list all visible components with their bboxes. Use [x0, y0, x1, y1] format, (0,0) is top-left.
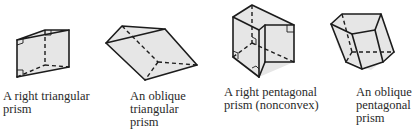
caption-oblique-triangular-prism: An oblique triangular prism [130, 90, 186, 129]
caption-oblique-pentagonal-prism: An oblique pentagonal prism [356, 86, 412, 125]
caption-right-triangular-prism: A right triangular prism [3, 90, 90, 116]
right-pentagonal-prism-nonconvex-drawing [233, 5, 294, 77]
oblique-pentagonal-prism-drawing [331, 14, 394, 70]
right-triangular-prism-drawing [17, 30, 69, 77]
caption-right-pentagonal-prism: A right pentagonal prism (nonconvex) [224, 86, 319, 112]
oblique-triangular-prism-drawing [106, 26, 197, 80]
